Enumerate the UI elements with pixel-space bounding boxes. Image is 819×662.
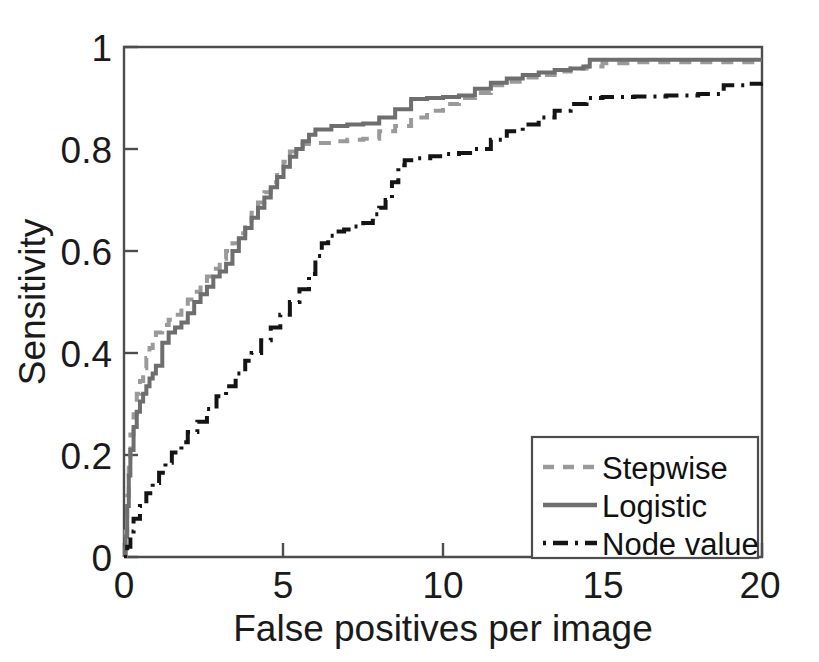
y-tick-label-0-6: 0.6 [61,232,112,273]
legend-label-logistic: Logistic [602,489,707,524]
x-tick-label-20: 20 [739,565,780,606]
x-axis-title: False positives per image [233,608,653,649]
figure-root: 1 0.8 0.6 0.4 0.2 0 0 5 10 15 20 False p… [0,0,819,662]
x-tick-labels: 0 5 10 15 20 [114,565,781,606]
legend-label-stepwise: Stepwise [602,451,728,486]
y-tick-label-0-2: 0.2 [61,436,112,477]
y-tick-label-0-4: 0.4 [61,334,112,375]
y-tick-marks [124,47,138,557]
legend[interactable]: Stepwise Logistic Node value [532,437,759,562]
legend-label-node-value: Node value [602,527,759,562]
y-tick-label-1: 1 [91,28,112,69]
froc-chart: 1 0.8 0.6 0.4 0.2 0 0 5 10 15 20 False p… [0,0,819,662]
x-tick-label-10: 10 [422,565,463,606]
y-tick-labels: 1 0.8 0.6 0.4 0.2 0 [61,28,112,579]
y-tick-label-0: 0 [91,538,112,579]
y-axis-title: Sensitivity [12,218,53,385]
y-tick-label-0-8: 0.8 [61,130,112,171]
x-tick-label-15: 15 [582,565,623,606]
x-tick-label-0: 0 [114,565,135,606]
x-tick-label-5: 5 [273,565,294,606]
